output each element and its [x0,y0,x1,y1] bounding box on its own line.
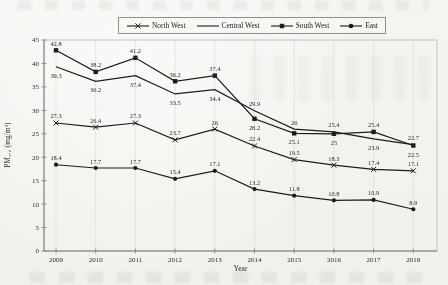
plot-area: 0510152025303540452009201020112012201320… [0,0,448,285]
legend-item-central-west: Central West [196,21,260,30]
y-tick-label: 5 [36,224,40,232]
x-tick-label-2016: 2016 [327,256,342,264]
marker-east [372,198,376,202]
data-label-north-west: 22.4 [249,135,261,142]
marker-east [213,169,217,173]
data-label-south-west: 25 [331,139,337,146]
y-tick-label: 10 [32,201,40,209]
data-label-central-west: 37.4 [130,81,142,88]
legend-item-north-west: North West [126,21,186,30]
marker-south-west [54,48,58,52]
y-tick-label: 40 [32,60,40,68]
y-tick-label: 0 [36,247,40,255]
data-label-east: 17.7 [130,158,142,165]
x-tick-label-2018: 2018 [406,256,421,264]
marker-south-west [133,56,137,60]
marker-south-west [332,132,336,136]
marker-south-west [94,70,98,74]
data-label-central-west: 34.4 [209,95,221,102]
x-tick-label-2015: 2015 [287,256,302,264]
data-label-north-west: 19.5 [289,149,300,156]
data-label-north-west: 26 [212,119,218,126]
legend-label-east: East [365,21,378,30]
x-tick-label-2012: 2012 [168,256,183,264]
marker-east [332,198,336,202]
data-label-south-west: 25.4 [368,121,380,128]
data-label-north-west: 17.4 [368,159,380,166]
legend-label-south-west: South West [296,21,330,30]
data-label-north-west: 18.3 [328,155,339,162]
chart-legend: North West Central West South West [118,17,386,34]
marker-east [173,177,177,181]
marker-east [252,187,256,191]
y-tick-label: 25 [32,130,40,138]
data-label-east: 18.4 [50,154,62,161]
data-label-central-west: 29.9 [249,100,260,107]
legend-label-central-west: Central West [222,21,260,30]
legend-item-south-west: South West [270,21,330,30]
x-axis-title: Year [44,264,437,273]
x-tick-label-2009: 2009 [49,256,64,264]
data-label-central-west: 39.3 [50,72,61,79]
marker-south-west [411,143,415,147]
data-label-east: 15.4 [170,168,182,175]
data-label-east: 10.9 [368,189,379,196]
y-tick-label: 35 [32,83,40,91]
marker-east [292,194,296,198]
central-west-line-icon [196,22,220,30]
marker-south-west [371,130,375,134]
data-label-north-west: 17.1 [408,160,419,167]
data-label-central-west: 33.5 [170,99,181,106]
x-tick-label-2011: 2011 [129,256,143,264]
data-label-east: 11.8 [289,185,300,192]
x-tick-label-2017: 2017 [367,256,382,264]
data-label-central-west: 23.9 [368,144,379,151]
series-line-east [56,165,413,210]
data-label-east: 8.9 [409,199,417,206]
data-label-north-west: 26.4 [90,117,102,124]
data-label-central-west: 26 [291,119,297,126]
marker-east [54,163,58,167]
pm25-line-chart: 0510152025303540452009201020112012201320… [0,0,448,285]
series-line-south-west [56,50,413,145]
data-label-north-west: 27.3 [50,112,61,119]
data-label-east: 10.8 [328,190,339,197]
x-tick-label-2014: 2014 [248,256,263,264]
y-tick-label: 30 [32,107,40,115]
data-label-central-west: 36.2 [90,86,101,93]
data-label-central-west: 22.7 [408,134,420,141]
marker-south-west [213,73,217,77]
marker-south-west [252,117,256,121]
data-label-south-west: 37.4 [209,65,221,72]
y-tick-label: 15 [32,177,40,185]
y-tick-label: 20 [32,154,40,162]
x-tick-label-2013: 2013 [208,256,223,264]
marker-south-west [173,79,177,83]
data-label-south-west: 25.1 [289,138,300,145]
marker-east [94,166,98,170]
data-label-east: 13.2 [249,179,260,186]
scanned-document-page: 0510152025303540452009201020112012201320… [0,0,448,285]
data-label-central-west: 25.4 [328,121,340,128]
data-label-south-west: 41.2 [130,47,141,54]
marker-east [411,207,415,211]
y-tick-label: 45 [32,36,40,44]
data-label-east: 17.1 [209,160,220,167]
series-line-north-west [56,123,413,171]
marker-south-west [292,131,296,135]
x-tick-label-2010: 2010 [89,256,104,264]
data-label-north-west: 23.7 [170,129,182,136]
data-label-north-west: 27.3 [130,112,141,119]
data-label-south-west: 28.2 [249,124,260,131]
legend-label-north-west: North West [152,21,186,30]
data-label-south-west: 42.8 [50,40,61,47]
east-circle-marker-icon [339,22,363,30]
data-label-south-west: 22.5 [408,151,419,158]
north-west-x-marker-icon [126,22,150,30]
y-axis-title: PM₂.₅ (mg/m³) [3,85,13,205]
legend-item-east: East [339,21,378,30]
data-label-south-west: 36.2 [170,71,181,78]
data-label-east: 17.7 [90,158,102,165]
south-west-square-marker-icon [270,22,294,30]
marker-east [133,166,137,170]
